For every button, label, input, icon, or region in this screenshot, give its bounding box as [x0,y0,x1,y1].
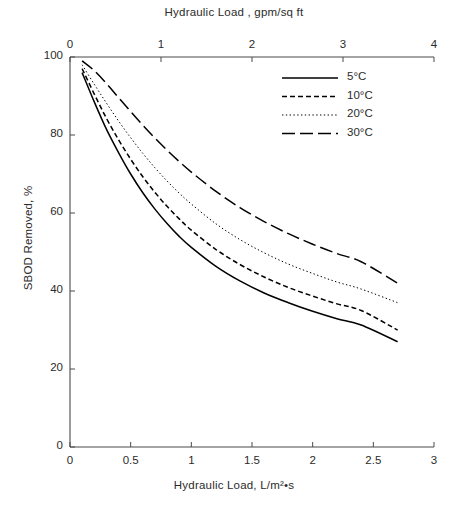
bottom-axis-tick-label: 1.5 [232,454,272,466]
bottom-axis-tick-label: 0.5 [111,454,151,466]
y-axis-tick-label: 100 [23,49,63,61]
legend-label-20C: 20°C [347,107,373,119]
y-axis-tick-label: 80 [23,127,63,139]
top-axis-tick-label: 4 [414,38,454,50]
legend-label-30C: 30°C [347,126,373,138]
bottom-axis-tick-label: 2.5 [353,454,393,466]
top-axis-tick-label: 1 [141,38,181,50]
bottom-axis-tick-label: 3 [414,454,454,466]
top-axis-tick-label: 2 [232,38,272,50]
bottom-axis-tick-label: 1 [171,454,211,466]
bottom-axis-tick-label: 2 [293,454,333,466]
bottom-axis-tick-label: 0 [50,454,90,466]
y-axis-tick-label: 40 [23,283,63,295]
chart-figure: Hydraulic Load , gpm/sq ft Hydraulic Loa… [0,0,468,505]
y-axis-tick-label: 0 [23,439,63,451]
top-axis-tick-label: 3 [323,38,363,50]
legend-label-10C: 10°C [347,89,373,101]
plot-canvas [0,0,468,505]
legend-label-5C: 5°C [347,70,366,82]
y-axis-tick-label: 60 [23,205,63,217]
y-axis-tick-label: 20 [23,361,63,373]
